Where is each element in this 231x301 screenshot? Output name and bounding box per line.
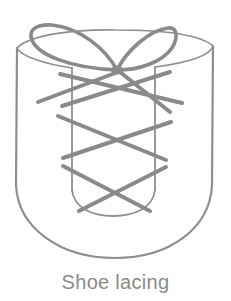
bow-left-loop <box>31 25 117 70</box>
shoe-opening-back-rim <box>17 30 213 48</box>
lace-segment <box>63 166 150 211</box>
figure-caption: Shoe lacing <box>0 268 231 296</box>
shoe-lacing-drawing <box>0 0 231 270</box>
shoe-lacing-figure: Shoe lacing <box>0 0 231 301</box>
laces <box>38 72 182 211</box>
shoe-outline <box>16 46 213 258</box>
bow-knot <box>111 66 123 75</box>
lace-segment <box>79 167 166 211</box>
bow-right-loop <box>117 28 176 70</box>
